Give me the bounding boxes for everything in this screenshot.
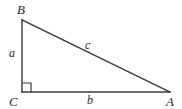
vertex-label-c: C (9, 95, 18, 108)
right-triangle-figure: B C A a b c (0, 0, 182, 109)
right-angle-marker-icon (22, 83, 31, 92)
vertex-label-a: A (166, 95, 174, 108)
side-c-line (22, 20, 170, 92)
side-label-c: c (85, 39, 90, 51)
side-label-b: b (87, 94, 93, 106)
side-label-a: a (9, 47, 15, 59)
vertex-label-b: B (17, 3, 25, 16)
